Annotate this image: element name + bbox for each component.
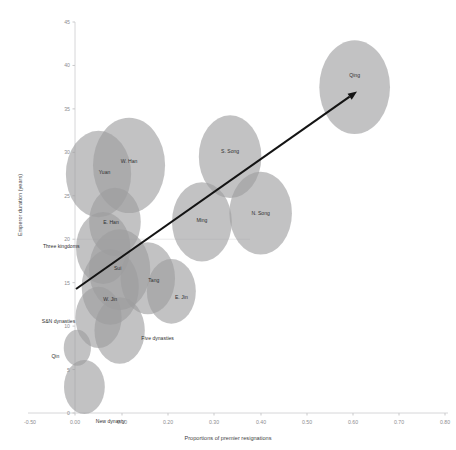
y-tick-label: 25 [64, 193, 70, 199]
chart-canvas: -0.500.000.100.200.300.400.500.600.700.8… [0, 0, 456, 450]
x-tick-label: 0.80 [440, 419, 450, 425]
bubble-layer [64, 40, 390, 414]
y-axis-title: Emperor duration (years) [17, 174, 23, 236]
bubble-label-s-song: S. Song [221, 148, 239, 154]
x-axis-title: Proportions of premier resignations [184, 435, 271, 441]
bubble-label-s-n-dynasties: S&N dynasties [42, 318, 76, 324]
x-tick-label: 0.70 [394, 419, 404, 425]
bubble-chart: -0.500.000.100.200.300.400.500.600.700.8… [0, 0, 456, 450]
x-tick-label: 0.50 [302, 419, 312, 425]
x-tick-label: -0.50 [24, 419, 36, 425]
bubble-qing [319, 40, 390, 134]
y-tick-label: 45 [64, 19, 70, 25]
bubble-label-tang: Tang [148, 277, 159, 283]
y-tick-label: 30 [64, 149, 70, 155]
x-tick-label: 0.20 [163, 419, 173, 425]
bubble-label-three-kingdoms: Three kingdoms [43, 243, 80, 249]
bubble-new-dynasty [64, 360, 105, 414]
bubble-label-five-dynasties: Five dynasties [141, 335, 174, 341]
bubble-label-ming: Ming [196, 217, 207, 223]
x-tick-label: 0.60 [348, 419, 358, 425]
x-tick-label: 0.30 [209, 419, 219, 425]
bubble-label-qin: Qin [51, 353, 59, 359]
bubble-label-new-dynasty: New dynasty [96, 418, 126, 424]
bubble-label-w-han: W. Han [121, 158, 138, 164]
bubble-label-w-jin: W. Jin [103, 296, 117, 302]
bubble-label-yuan: Yuan [99, 169, 111, 175]
bubble-label-sui: Sui [114, 265, 121, 271]
bubble-label-e-jin: E. Jin [175, 294, 188, 300]
y-tick-label: 35 [64, 106, 70, 112]
bubble-five-dynasties [94, 297, 144, 364]
bubble-label-qing: Qing [349, 72, 360, 78]
y-tick-label: 40 [64, 62, 70, 68]
x-tick-label: 0.00 [70, 419, 80, 425]
y-tick-label: 15 [64, 280, 70, 286]
x-tick-label: 0.40 [256, 419, 266, 425]
bubble-label-n-song: N. Song [251, 210, 270, 216]
bubble-label-e-han: E. Han [103, 219, 119, 225]
y-tick-label: 20 [64, 236, 70, 242]
y-tick-label: 0 [67, 410, 70, 416]
